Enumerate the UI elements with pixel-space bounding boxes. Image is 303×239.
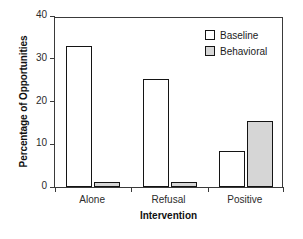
x-tick-mark [131, 187, 132, 192]
y-tick-label: 10 [36, 137, 47, 148]
bar-alone-behavioral [94, 182, 120, 187]
legend-swatch-behavioral [205, 46, 215, 56]
y-tick-mark [50, 58, 55, 59]
x-tick-mark [55, 187, 56, 192]
x-tick-label-alone: Alone [79, 194, 105, 205]
legend-label: Behavioral [220, 46, 267, 57]
bar-refusal-baseline [143, 79, 169, 187]
x-tick-label-refusal: Refusal [152, 194, 186, 205]
legend-item-baseline: Baseline [205, 28, 267, 42]
chart-legend: BaselineBehavioral [205, 28, 267, 60]
x-axis-title: Intervention [54, 210, 283, 221]
y-tick-mark [50, 101, 55, 102]
x-tick-label-positive: Positive [227, 194, 262, 205]
legend-label: Baseline [220, 30, 258, 41]
y-tick-mark [50, 144, 55, 145]
legend-item-behavioral: Behavioral [205, 44, 267, 58]
y-tick-label: 20 [36, 95, 47, 106]
x-tick-mark [283, 187, 284, 192]
y-tick-label: 0 [41, 180, 47, 191]
bar-alone-baseline [66, 46, 92, 187]
bar-refusal-behavioral [171, 182, 197, 187]
y-tick-label: 30 [36, 52, 47, 63]
y-tick-mark [50, 16, 55, 17]
legend-swatch-baseline [205, 30, 215, 40]
x-tick-mark [208, 187, 209, 192]
bar-positive-baseline [219, 151, 245, 187]
y-tick-label: 40 [36, 9, 47, 20]
bar-positive-behavioral [247, 121, 273, 187]
y-axis-title: Percentage of Opportunities [18, 17, 29, 187]
bar-chart: Percentage of Opportunities 010203040 Al… [0, 0, 303, 239]
